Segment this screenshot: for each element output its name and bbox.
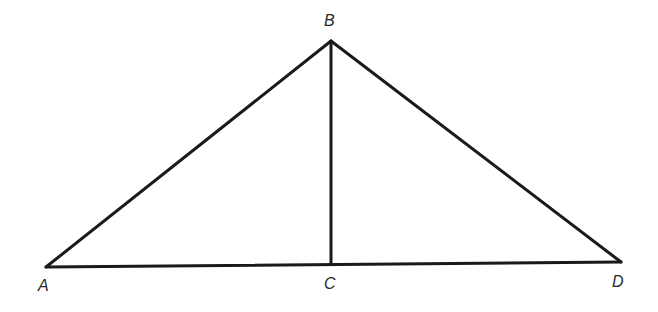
label-d: D xyxy=(612,273,624,290)
label-a: A xyxy=(37,277,49,294)
segment-bd xyxy=(331,41,621,262)
triangle-diagram: B A C D xyxy=(0,0,658,312)
segment-ab xyxy=(46,41,331,267)
label-b: B xyxy=(324,12,335,29)
segment-ad xyxy=(46,262,621,267)
label-c: C xyxy=(324,275,336,292)
